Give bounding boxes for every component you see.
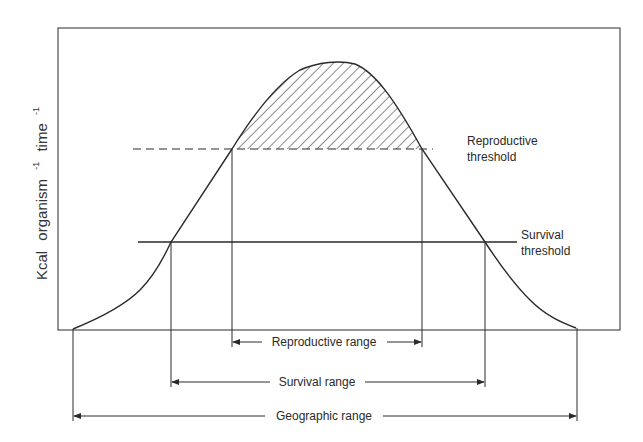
y-axis-kcal: Kcal — [33, 251, 50, 280]
y-axis-organism: organism — [33, 179, 50, 241]
reproductive-threshold-line1: Reproductive — [467, 134, 538, 148]
survival-range-label: Survival range — [279, 375, 356, 389]
geographic-range-diagram: Reproductive range Survival range Geogra… — [0, 0, 643, 442]
reproductive-threshold-label: Reproductive threshold — [467, 134, 541, 164]
y-axis-sup1: -1 — [31, 162, 41, 170]
survival-threshold-line1: Survival — [521, 228, 564, 242]
survival-threshold-line2: threshold — [521, 244, 570, 258]
y-axis-sup2: -1 — [31, 107, 41, 115]
y-axis-time: time — [33, 123, 50, 151]
survival-threshold-label: Survival threshold — [521, 228, 570, 258]
reproductive-range-label: Reproductive range — [272, 335, 377, 349]
svg-text:Kcal organism -1: Kcal organism -1 time -1 — [25, 107, 50, 280]
y-axis-label: Kcal organism -1 time -1 — [25, 107, 50, 280]
geographic-range-label: Geographic range — [276, 409, 372, 423]
hatched-reproductive-surplus — [73, 62, 576, 329]
reproductive-threshold-line2: threshold — [467, 150, 516, 164]
